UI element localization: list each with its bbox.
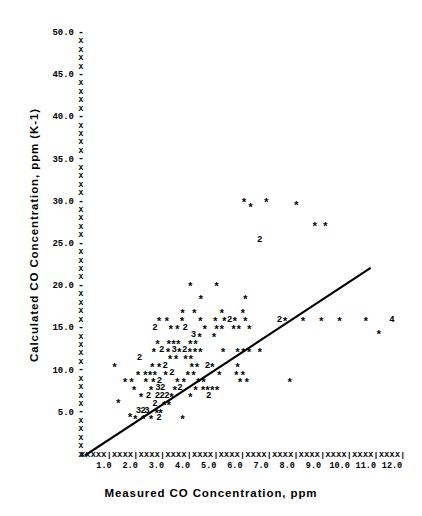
data-point-count: 2	[257, 235, 262, 244]
data-point: *	[219, 308, 226, 319]
data-point: *	[234, 362, 241, 373]
data-point: *	[138, 393, 145, 404]
data-point: *	[318, 317, 325, 328]
data-point: *	[175, 340, 182, 351]
data-point: *	[376, 330, 383, 341]
data-point: *	[140, 415, 147, 426]
data-point: *	[154, 340, 161, 351]
data-point: *	[293, 200, 300, 211]
scatter-plot-figure: Calculated CO Concentration, ppm (K-1) M…	[0, 0, 422, 516]
data-point: *	[242, 295, 249, 306]
data-point: *	[156, 317, 163, 328]
data-point: *	[198, 295, 205, 306]
data-point: *	[194, 362, 201, 373]
data-point-count: 2	[137, 353, 142, 362]
data-point: *	[287, 378, 294, 389]
data-point-count: 4	[389, 315, 394, 324]
data-point: *	[311, 221, 318, 232]
data-point: *	[263, 197, 270, 208]
data-point: *	[179, 308, 186, 319]
data-point: *	[213, 281, 220, 292]
data-point-layer: ***323****2*2***2222**2**32*2*********2*…	[0, 0, 422, 516]
data-point: *	[209, 362, 216, 373]
data-point: *	[216, 370, 223, 381]
data-point: *	[214, 385, 221, 396]
data-point: *	[111, 362, 118, 373]
data-point-count: 2	[156, 413, 161, 422]
data-point: *	[220, 347, 227, 358]
data-point: *	[162, 370, 169, 381]
data-point: *	[191, 308, 198, 319]
data-point: *	[300, 317, 307, 328]
data-point: *	[322, 221, 329, 232]
data-point: *	[246, 347, 253, 358]
data-point: *	[132, 415, 139, 426]
data-point: *	[115, 399, 122, 410]
data-point: *	[135, 370, 142, 381]
data-point: *	[239, 308, 246, 319]
data-point: *	[282, 317, 289, 328]
data-point: *	[179, 415, 186, 426]
data-point: *	[363, 317, 370, 328]
data-point: *	[187, 281, 194, 292]
data-point-count: 2	[169, 369, 174, 378]
data-point: *	[164, 317, 171, 328]
data-point: *	[156, 362, 163, 373]
data-point: *	[232, 317, 239, 328]
data-point: *	[256, 347, 263, 358]
data-point: *	[197, 317, 204, 328]
data-point: *	[200, 378, 207, 389]
data-point: *	[247, 202, 254, 213]
data-point: *	[336, 317, 343, 328]
